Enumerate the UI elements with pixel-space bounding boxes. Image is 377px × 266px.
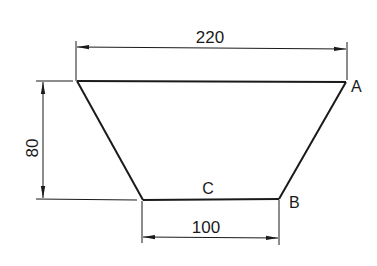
technical-drawing: 220 80 100 A B C xyxy=(0,0,377,266)
left-slanted-edge xyxy=(77,81,143,200)
top-width-label: 220 xyxy=(196,28,224,47)
bottom-width-label: 100 xyxy=(192,218,220,237)
right-slanted-edge xyxy=(279,82,346,199)
bottom-edge xyxy=(143,199,279,200)
extension-line-bottom xyxy=(36,199,137,200)
bottom-width-dimension: 100 xyxy=(142,200,279,245)
top-edge xyxy=(77,81,346,82)
dimension-line xyxy=(77,47,346,49)
point-label-b: B xyxy=(289,194,300,211)
dimension-line xyxy=(143,237,278,238)
height-label: 80 xyxy=(23,139,42,158)
point-label-a: A xyxy=(351,78,362,95)
height-dimension: 80 xyxy=(23,81,137,200)
point-label-c: C xyxy=(202,180,214,197)
top-width-dimension: 220 xyxy=(76,28,347,81)
